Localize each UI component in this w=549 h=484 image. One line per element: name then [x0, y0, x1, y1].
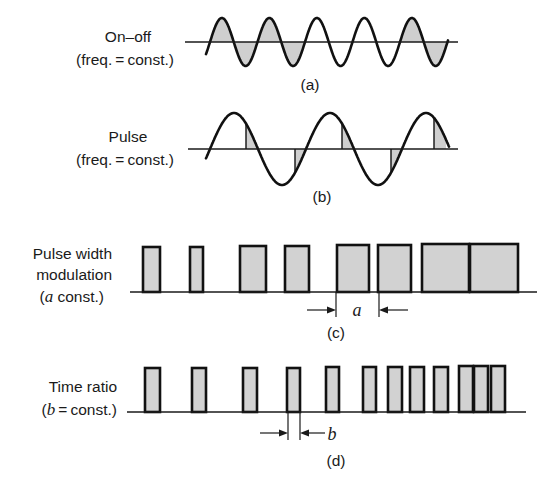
panel-a-caption: (a)	[301, 76, 320, 93]
arrow-right-icon	[327, 307, 336, 314]
arrow-left-icon	[379, 307, 388, 314]
panel-b-label-line2: (freq. = const.)	[76, 151, 174, 168]
pulse	[470, 244, 518, 292]
pulse	[143, 247, 160, 292]
time-ratio-pulse-train	[145, 366, 505, 412]
pulse	[474, 366, 488, 412]
pulse	[192, 368, 206, 412]
pulse	[285, 246, 309, 292]
panel-c-label-line2: modulation	[36, 266, 112, 283]
pulse	[337, 245, 369, 292]
panel-a-label-line1: On–off	[105, 28, 152, 45]
pulse	[190, 247, 203, 292]
pulse	[388, 367, 402, 412]
pulse	[243, 368, 257, 412]
pulse	[363, 367, 376, 412]
panel-d-label-line1: Time ratio	[49, 378, 117, 395]
pulse	[378, 245, 411, 292]
panel-c-label-line1: Pulse width	[33, 245, 112, 262]
panel-c-pulse-width-modulation: Pulse width modulation (a const.) a (c)	[33, 244, 537, 341]
pulse	[434, 367, 448, 412]
pulse	[459, 366, 473, 412]
pulse	[326, 367, 339, 412]
panel-d-time-ratio: Time ratio (b = const.) b (d)	[42, 366, 526, 469]
panel-b-pulse: Pulse (freq. = const.) (b)	[76, 113, 458, 205]
panel-b-caption: (b)	[313, 188, 332, 205]
arrow-left-icon	[300, 430, 309, 437]
dimension-b: b	[260, 412, 337, 444]
pwm-pulse-train	[143, 244, 518, 292]
pulse	[287, 368, 300, 412]
panel-d-caption: (d)	[327, 452, 346, 469]
panel-c-caption: (c)	[327, 324, 345, 341]
arrow-right-icon	[279, 430, 288, 437]
pulse	[145, 368, 160, 412]
dimension-a: a	[307, 292, 408, 320]
pulse	[410, 367, 424, 412]
dimension-a-symbol: a	[353, 300, 362, 320]
panel-d-label-line2: (b = const.)	[42, 400, 117, 419]
panel-a-label-line2: (freq. = const.)	[76, 51, 174, 68]
panel-c-label-line3: (a const.)	[40, 287, 105, 306]
pulse	[422, 244, 469, 292]
modulation-methods-diagram: On–off (freq. = const.) (a) Pulse (freq.…	[0, 0, 549, 484]
dimension-b-symbol: b	[328, 424, 337, 444]
panel-b-label-line1: Pulse	[109, 128, 148, 145]
pulse	[240, 246, 266, 292]
panel-a-on-off: On–off (freq. = const.) (a)	[76, 18, 458, 93]
pulse	[491, 366, 505, 412]
